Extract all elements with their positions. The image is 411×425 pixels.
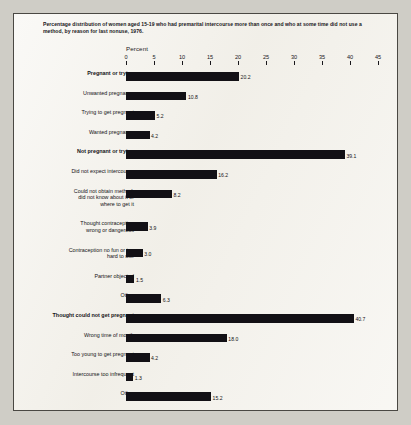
x-axis-tick-label: 0 xyxy=(118,54,134,60)
bar-value-label: 3.9 xyxy=(148,225,157,231)
category-label-line: wrong or dangerous xyxy=(30,227,134,234)
category-label: Too young to get pregnant xyxy=(30,351,134,358)
bar xyxy=(126,150,345,160)
screenshot-canvas: Percentage distribution of women aged 15… xyxy=(0,0,411,425)
category-label: Did not expect intercourse xyxy=(30,168,134,175)
x-axis-tick-mark xyxy=(238,61,239,65)
chart-bar-row: Thought contraceptionwrong or dangerous3… xyxy=(0,220,385,243)
bar-value-label: 6.3 xyxy=(161,297,170,303)
x-axis-tick-mark xyxy=(294,61,295,65)
bar-value-label: 18.0 xyxy=(227,336,238,342)
bar xyxy=(126,190,172,199)
bar xyxy=(126,170,217,179)
bar-value-label: 5.2 xyxy=(155,113,164,119)
bar xyxy=(126,294,161,303)
category-label-line: Thought contraception xyxy=(30,220,134,227)
x-axis-tick: 35 xyxy=(314,54,330,65)
bar-value-label: 1.5 xyxy=(134,277,143,283)
category-label: Contraception no fun or toohard to use xyxy=(30,247,134,260)
bar-track: 4.2 xyxy=(126,129,378,145)
bar xyxy=(126,353,150,362)
x-axis: 051015202530354045 xyxy=(126,54,378,68)
x-axis-tick-label: 35 xyxy=(314,54,330,60)
bar-value-label: 39.1 xyxy=(345,153,356,159)
x-axis-tick: 25 xyxy=(258,54,274,65)
bar-value-label: 3.0 xyxy=(143,251,152,257)
x-axis-tick-label: 15 xyxy=(202,54,218,60)
x-axis-tick-mark xyxy=(154,61,155,65)
category-label: Could not obtain method;did not know abo… xyxy=(30,188,134,208)
x-axis-tick: 10 xyxy=(174,54,190,65)
chart-bar-row: Trying to get pregnant5.2 xyxy=(0,109,385,125)
chart-group-row: Thought could not get pregnant40.7 xyxy=(0,312,385,328)
category-label-line: Wanted pregnancy xyxy=(30,129,134,136)
category-label: Not pregnant or trying xyxy=(30,148,134,155)
category-label-line: Other xyxy=(30,390,134,397)
bar-track: 16.2 xyxy=(126,168,378,184)
chart-bar-row: Wanted pregnancy4.2 xyxy=(0,129,385,145)
bar-track: 4.2 xyxy=(126,351,378,367)
chart-bar-row: Could not obtain method;did not know abo… xyxy=(0,188,385,217)
chart-bar-row: Other6.3 xyxy=(0,292,385,308)
x-axis-tick-label: 25 xyxy=(258,54,274,60)
category-label: Other xyxy=(30,292,134,299)
bar-value-label: 4.2 xyxy=(150,355,159,361)
bar-track: 40.7 xyxy=(126,312,378,328)
bar-track: 39.1 xyxy=(126,148,378,164)
chart-bar-row: Too young to get pregnant4.2 xyxy=(0,351,385,367)
chart-bar-row: Partner objected1.5 xyxy=(0,273,385,289)
bar-track: 6.3 xyxy=(126,292,378,308)
axis-title-percent: Percent xyxy=(126,45,148,52)
category-label-line: Pregnant or trying xyxy=(30,70,134,77)
bar-track: 3.0 xyxy=(126,247,378,263)
bar xyxy=(126,131,150,140)
category-label-line: Thought could not get pregnant xyxy=(30,312,134,319)
bar xyxy=(126,72,239,82)
bar xyxy=(126,275,134,284)
x-axis-tick: 15 xyxy=(202,54,218,65)
x-axis-tick-mark xyxy=(210,61,211,65)
bar-track: 20.2 xyxy=(126,70,378,86)
category-label-line: Could not obtain method; xyxy=(30,188,134,195)
x-axis-tick-label: 10 xyxy=(174,54,190,60)
bar-track: 1.5 xyxy=(126,273,378,289)
x-axis-tick: 30 xyxy=(286,54,302,65)
bar-track: 1.3 xyxy=(126,371,378,387)
page-title: Percentage distribution of women aged 15… xyxy=(43,21,373,36)
bar xyxy=(126,92,186,101)
category-label-line: Intercourse too infrequent xyxy=(30,371,134,378)
x-axis-tick-label: 30 xyxy=(286,54,302,60)
x-axis-tick-mark xyxy=(182,61,183,65)
bar-track: 10.8 xyxy=(126,90,378,106)
category-label: Partner objected xyxy=(30,273,134,280)
chart-bar-row: Other15.2 xyxy=(0,390,385,406)
bar xyxy=(126,334,227,343)
category-label: Wrong time of month xyxy=(30,332,134,339)
x-axis-tick: 0 xyxy=(118,54,134,65)
category-label: Thought contraceptionwrong or dangerous xyxy=(30,220,134,233)
category-label: Wanted pregnancy xyxy=(30,129,134,136)
bar xyxy=(126,249,143,258)
category-label-line: Partner objected xyxy=(30,273,134,280)
category-label: Trying to get pregnant xyxy=(30,109,134,116)
bar-value-label: 16.2 xyxy=(217,172,228,178)
bar-value-label: 15.2 xyxy=(211,395,222,401)
category-label-line: Unwanted pregnancy xyxy=(30,90,134,97)
bar-track: 8.2 xyxy=(126,188,378,204)
bar xyxy=(126,373,133,382)
category-label-line: Contraception no fun or too xyxy=(30,247,134,254)
bar xyxy=(126,314,354,324)
bar-chart-plot-area: Pregnant or trying20.2Unwanted pregnancy… xyxy=(0,70,385,397)
x-axis-tick-label: 5 xyxy=(146,54,162,60)
bar-value-label: 8.2 xyxy=(172,192,181,198)
bar-value-label: 20.2 xyxy=(239,74,250,80)
chart-bar-row: Wrong time of month18.0 xyxy=(0,332,385,348)
x-axis-tick: 45 xyxy=(370,54,386,65)
x-axis-tick-mark xyxy=(266,61,267,65)
category-label: Thought could not get pregnant xyxy=(30,312,134,319)
category-label-line: Too young to get pregnant xyxy=(30,351,134,358)
bar-value-label: 1.3 xyxy=(133,375,142,381)
x-axis-tick: 40 xyxy=(342,54,358,65)
x-axis-tick-mark xyxy=(126,61,127,65)
bar-track: 18.0 xyxy=(126,332,378,348)
